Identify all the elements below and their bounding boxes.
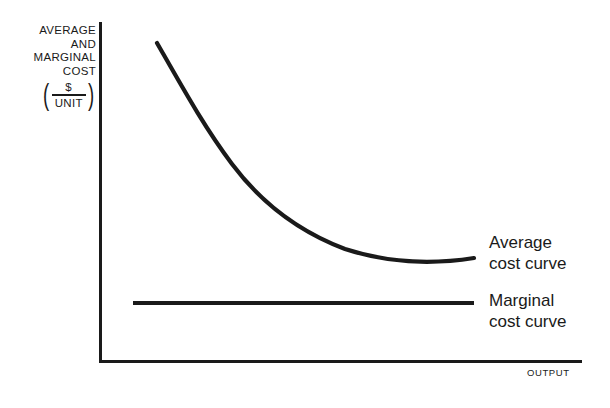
legend-marginal-line-1: Marginal <box>489 291 554 310</box>
plot-area <box>0 0 610 408</box>
legend-marginal-line-2: cost curve <box>489 311 566 332</box>
legend-average-line-2: cost curve <box>489 253 566 274</box>
cost-curves-figure: AVERAGE AND MARGINAL COST ( $ UNIT ) Ave… <box>0 0 610 408</box>
legend-label-average-cost: Average cost curve <box>489 232 566 274</box>
x-axis-label: OUTPUT <box>527 367 570 378</box>
legend-average-line-1: Average <box>489 233 552 252</box>
average-cost-curve <box>157 43 474 262</box>
legend-label-marginal-cost: Marginal cost curve <box>489 290 566 332</box>
